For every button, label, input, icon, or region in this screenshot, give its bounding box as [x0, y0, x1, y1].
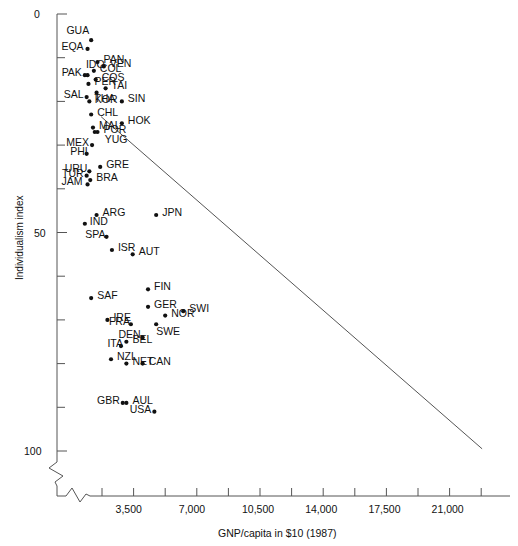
point-label: PHI: [70, 146, 88, 157]
data-point: [163, 313, 167, 317]
data-point: [85, 47, 89, 51]
data-point: [89, 38, 93, 42]
data-point: [85, 95, 89, 99]
x-axis-group: [57, 488, 510, 502]
point-label: EQA: [61, 41, 83, 52]
x-tick-label: 3,500: [116, 503, 142, 515]
x-tick-label: 21,000: [432, 503, 464, 515]
data-point: [83, 222, 87, 226]
data-point: [83, 73, 87, 77]
point-label: DEN: [118, 329, 140, 340]
x-tick-label: 14,000: [305, 503, 337, 515]
point-label: YUG: [105, 134, 128, 145]
y-axis-line: [49, 14, 63, 496]
point-label: USA: [130, 404, 152, 415]
point-label: AUT: [139, 246, 160, 257]
y-tick-label: 50: [34, 227, 46, 239]
data-point: [109, 357, 113, 361]
data-point: [85, 174, 89, 178]
x-axis-title: GNP/capita in $10 (1987): [218, 527, 336, 539]
x-tick-label: 10,500: [242, 503, 274, 515]
point-label: IND: [90, 216, 108, 227]
point-label: JAM: [62, 176, 83, 187]
data-point: [90, 143, 94, 147]
data-point: [93, 130, 97, 134]
point-label: JPN: [162, 207, 182, 218]
point-label: SAL: [64, 89, 84, 100]
x-axis-line: [57, 488, 510, 502]
point-label: PAK: [62, 67, 82, 78]
data-point: [87, 169, 91, 173]
point-label: FIN: [154, 281, 171, 292]
data-point: [154, 213, 158, 217]
point-label: SIN: [128, 93, 146, 104]
x-tick-label: 7,000: [179, 503, 205, 515]
y-axis-title: Individualism index: [14, 196, 25, 281]
y-tick-label: 0: [34, 8, 40, 20]
point-label: GBR: [97, 395, 120, 406]
point-label: CAN: [149, 356, 171, 367]
plot-canvas: [0, 0, 518, 546]
data-point: [124, 362, 128, 366]
point-label: VEN: [110, 58, 132, 69]
point-label: THA: [94, 93, 115, 104]
point-label: FRA: [109, 316, 130, 327]
point-label: SPA: [85, 229, 105, 240]
data-point: [121, 401, 125, 405]
data-point: [85, 182, 89, 186]
data-point: [89, 296, 93, 300]
data-point: [98, 165, 102, 169]
point-label: SWI: [189, 303, 209, 314]
point-label: HOK: [128, 115, 151, 126]
y-axis-group: [49, 14, 67, 496]
point-label: SWE: [156, 326, 180, 337]
data-point: [88, 178, 92, 182]
data-point: [86, 82, 90, 86]
data-point: [91, 126, 95, 130]
data-point: [146, 287, 150, 291]
data-point: [152, 410, 156, 414]
point-label: PER: [94, 76, 116, 87]
data-point: [89, 112, 93, 116]
x-axis-ticks: [102, 488, 481, 496]
data-point: [146, 305, 150, 309]
x-tick-label: 17,500: [368, 503, 400, 515]
point-label: ISR: [118, 242, 136, 253]
data-point: [110, 248, 114, 252]
point-label: BRA: [96, 172, 118, 183]
data-point: [124, 340, 128, 344]
point-label: SAF: [97, 290, 117, 301]
point-label: CHL: [97, 107, 118, 118]
scatter-chart: Individualism Index versus GNP/capita GU…: [0, 0, 518, 546]
point-label: GUA: [66, 25, 89, 36]
data-point: [124, 401, 128, 405]
data-point: [120, 99, 124, 103]
data-point: [87, 99, 91, 103]
y-axis-ticks: [57, 14, 67, 451]
point-label: GRE: [106, 159, 129, 170]
y-tick-label: 100: [24, 445, 42, 457]
point-label: IDO: [86, 59, 105, 70]
